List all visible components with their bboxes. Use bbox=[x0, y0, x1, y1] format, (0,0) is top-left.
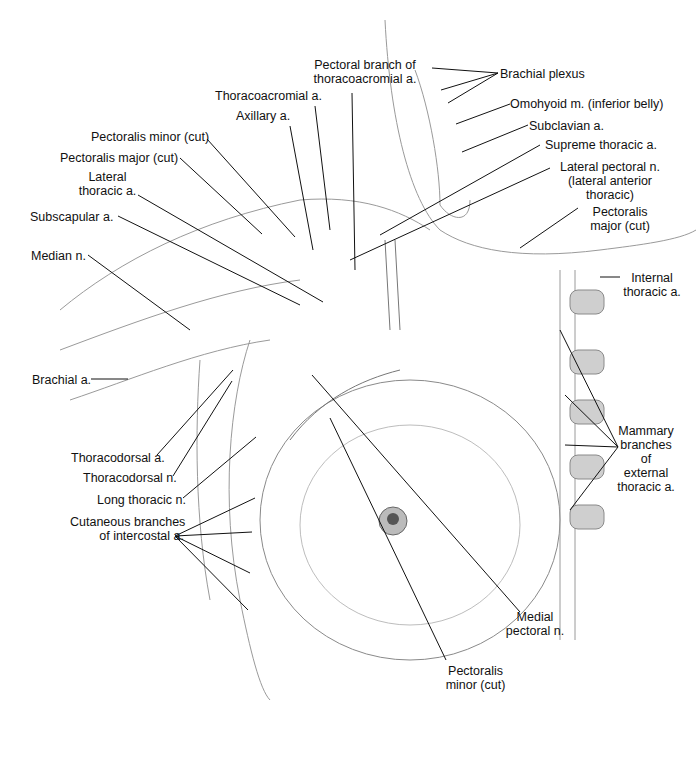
label-pectoralis-major-cut: Pectoralis major (cut) bbox=[60, 151, 178, 165]
label-cutaneous-line2: of intercostal a. bbox=[70, 529, 184, 543]
label-pectoral-branch-line1: Pectoral branch of bbox=[310, 58, 420, 72]
label-lateral-pectoral-line2: (lateral anterior bbox=[550, 174, 670, 188]
label-median-n: Median n. bbox=[31, 249, 86, 263]
label-pectoral-branch-line2: thoracoacromial a. bbox=[310, 72, 420, 86]
label-subscapular: Subscapular a. bbox=[30, 210, 113, 224]
label-mammary-line5: thoracic a. bbox=[606, 480, 686, 494]
label-thoracodorsal-a: Thoracodorsal a. bbox=[71, 451, 165, 465]
label-mammary-line1: Mammary bbox=[606, 424, 686, 438]
label-mammary-line4: external bbox=[606, 466, 686, 480]
label-mammary-branches: Mammary branches of external thoracic a. bbox=[606, 424, 686, 494]
label-pectoralis-minor-bottom: Pectoralis minor (cut) bbox=[443, 664, 508, 692]
label-pectoralis-major-right: Pectoralis major (cut) bbox=[580, 205, 660, 233]
label-mammary-line3: of bbox=[606, 452, 686, 466]
label-internal-thoracic: Internal thoracic a. bbox=[612, 271, 692, 299]
label-internal-thoracic-line1: Internal bbox=[612, 271, 692, 285]
label-lateral-thoracic-line1: Lateral bbox=[75, 170, 140, 184]
label-cutaneous-branches: Cutaneous branches of intercostal a. bbox=[70, 515, 184, 543]
label-medial-pectoral-line1: Medial bbox=[505, 610, 565, 624]
label-brachial-plexus: Brachial plexus bbox=[500, 67, 585, 81]
label-supreme-thoracic: Supreme thoracic a. bbox=[545, 138, 657, 152]
label-pectoralis-major-right-line1: Pectoralis bbox=[580, 205, 660, 219]
label-thoracodorsal-n: Thoracodorsal n. bbox=[83, 471, 177, 485]
label-omohyoid: Omohyoid m. (inferior belly) bbox=[510, 97, 664, 111]
label-axillary: Axillary a. bbox=[236, 109, 290, 123]
label-medial-pectoral-line2: pectoral n. bbox=[505, 624, 565, 638]
label-long-thoracic: Long thoracic n. bbox=[97, 493, 186, 507]
label-mammary-line2: branches bbox=[606, 438, 686, 452]
label-lateral-pectoral-line1: Lateral pectoral n. bbox=[550, 160, 670, 174]
label-pectoral-branch: Pectoral branch of thoracoacromial a. bbox=[310, 58, 420, 86]
label-pectoralis-minor-cut: Pectoralis minor (cut) bbox=[91, 130, 209, 144]
label-pectoralis-major-right-line2: major (cut) bbox=[580, 219, 660, 233]
label-brachial-a: Brachial a. bbox=[32, 373, 91, 387]
anatomy-figure: Brachial plexus Omohyoid m. (inferior be… bbox=[0, 0, 696, 768]
label-subclavian: Subclavian a. bbox=[529, 119, 604, 133]
label-internal-thoracic-line2: thoracic a. bbox=[612, 285, 692, 299]
label-lateral-pectoral-line3: thoracic) bbox=[550, 188, 670, 202]
label-pectoralis-minor-bottom-line1: Pectoralis bbox=[443, 664, 508, 678]
label-medial-pectoral: Medial pectoral n. bbox=[505, 610, 565, 638]
label-pectoralis-minor-bottom-line2: minor (cut) bbox=[443, 678, 508, 692]
label-thoracoacromial: Thoracoacromial a. bbox=[215, 89, 322, 103]
illustration bbox=[0, 0, 696, 768]
label-lateral-thoracic: Lateral thoracic a. bbox=[75, 170, 140, 198]
label-cutaneous-line1: Cutaneous branches bbox=[70, 515, 184, 529]
label-lateral-thoracic-line2: thoracic a. bbox=[75, 184, 140, 198]
label-lateral-pectoral: Lateral pectoral n. (lateral anterior th… bbox=[550, 160, 670, 202]
